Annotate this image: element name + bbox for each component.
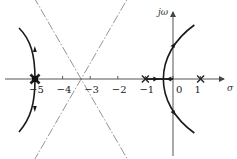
tick-label: 1 (195, 84, 201, 95)
sigma-axis-label: σ (227, 83, 234, 93)
tick-label: −4 (57, 84, 72, 95)
left-branch-upper (19, 28, 35, 79)
tick-label: −5 (29, 84, 44, 95)
direction-arrow (33, 46, 37, 52)
tick-label: 0 (176, 84, 182, 95)
jomega-axis-label: jω (156, 7, 169, 17)
right-branch-upper (163, 25, 194, 79)
direction-arrow (33, 106, 37, 112)
root-locus-diagram: −5−4−3−2−101 σ jω (0, 0, 237, 159)
tick-label: −1 (139, 84, 154, 95)
direction-arrow (166, 77, 171, 82)
tick-label: −2 (112, 84, 127, 95)
tick-label: −3 (84, 84, 99, 95)
direction-arrow (153, 77, 158, 82)
